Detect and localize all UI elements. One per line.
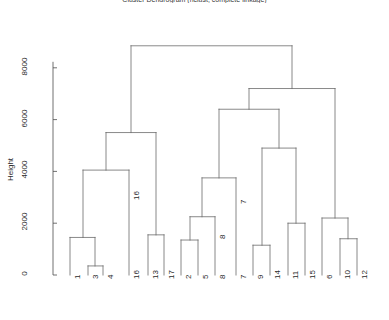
leaf-label-10: 10 xyxy=(343,270,352,279)
y-tick-label: 8000 xyxy=(20,42,29,90)
leaf-label-15: 15 xyxy=(308,270,317,279)
leaf-label-6: 6 xyxy=(325,275,334,279)
y-tick-label: 2000 xyxy=(20,198,29,246)
dendrogram-figure: Cluster Dendrogram (hclust, complete lin… xyxy=(0,0,389,320)
node-label-8: 8 xyxy=(218,234,227,238)
leaf-label-9: 9 xyxy=(256,275,265,279)
leaf-label-7: 7 xyxy=(239,275,248,279)
leaf-label-3: 3 xyxy=(91,275,100,279)
leaf-label-11: 11 xyxy=(291,271,300,279)
node-label-16: 16 xyxy=(132,191,141,200)
leaf-label-16: 16 xyxy=(132,270,141,279)
leaf-label-14: 14 xyxy=(273,270,282,279)
leaf-label-8: 8 xyxy=(218,275,227,279)
y-tick-label: 6000 xyxy=(20,94,29,142)
leaf-label-13: 13 xyxy=(151,270,160,279)
dendrogram-canvas xyxy=(0,0,389,320)
y-tick-label: 0 xyxy=(20,250,29,298)
y-tick-label: 4000 xyxy=(20,146,29,194)
leaf-label-17: 17 xyxy=(167,270,176,279)
leaf-label-2: 2 xyxy=(184,275,193,279)
y-axis xyxy=(53,62,57,275)
leaf-label-4: 4 xyxy=(106,275,115,279)
leaf-label-1: 1 xyxy=(73,275,82,279)
dendrogram-tree xyxy=(70,46,357,275)
leaf-label-5: 5 xyxy=(201,275,210,279)
leaf-label-12: 12 xyxy=(360,270,369,279)
y-axis-title: Height xyxy=(6,146,15,194)
node-label-7: 7 xyxy=(239,199,248,203)
